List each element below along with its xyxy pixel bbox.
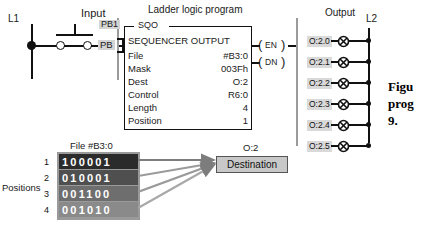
- figure-caption: Figu prog 9.: [388, 78, 414, 129]
- contact-tick-tl: [117, 38, 123, 40]
- sqo-value-file: #B3:0: [223, 50, 248, 61]
- output-address-5: O:2.5: [307, 141, 332, 152]
- destination-address: O:2: [243, 143, 258, 153]
- sqo-value-control: R6:0: [228, 89, 248, 100]
- sqo-value-dest: O:2: [233, 76, 248, 87]
- sqo-key-file: File: [128, 50, 143, 61]
- dn-coil-label: DN: [265, 58, 277, 67]
- lamp-lead-left-5: [331, 145, 338, 147]
- sqo-border-top-right: [169, 26, 252, 27]
- file-table-title: File #B3:0: [70, 141, 113, 151]
- en-coil-label: EN: [265, 41, 277, 50]
- pb-label: PB: [98, 40, 115, 50]
- en-wire-out: [288, 45, 296, 47]
- lamp-lead-left-2: [331, 82, 338, 84]
- dn-coil-paren-right: ): [281, 54, 285, 69]
- l2-junction-5: [366, 143, 371, 148]
- output-address-4: O:2.4: [307, 120, 332, 131]
- sqo-value-length: 4: [243, 102, 248, 113]
- l2-junction-4: [366, 122, 371, 127]
- ladder-right-rail: [296, 18, 298, 146]
- sqo-border-top-left: [124, 26, 134, 27]
- lamp-lead-left-0: [331, 40, 338, 42]
- l2-label: L2: [366, 14, 377, 24]
- file-row-number-2: 2: [44, 173, 49, 183]
- en-coil-paren-left: (: [258, 37, 262, 52]
- pb-wire-mid: [64, 45, 84, 47]
- output-address-1: O:2.1: [307, 57, 332, 68]
- positions-label: Positions: [2, 183, 41, 193]
- lamp-lead-left-1: [331, 61, 338, 63]
- caption-line-1: Figu: [388, 78, 414, 95]
- sqo-value-mask: 003Fh: [221, 63, 248, 74]
- file-row-4: 001010: [59, 202, 138, 217]
- file-row-number-3: 3: [44, 189, 49, 199]
- destination-box: Destination: [216, 156, 288, 173]
- file-row-number-4: 4: [44, 205, 49, 215]
- ladder-title: Ladder logic program: [148, 5, 243, 15]
- caption-line-3: 9.: [388, 112, 414, 129]
- ladder-logic-figure: Input Ladder logic program Output L1 PB …: [0, 0, 425, 232]
- contact-tick-bl: [117, 51, 123, 53]
- sqo-key-dest: Dest: [128, 76, 148, 87]
- sqo-key-length: Length: [128, 102, 157, 113]
- file-row-number-1: 1: [44, 157, 49, 167]
- output-address-0: O:2.0: [307, 36, 332, 47]
- input-heading: Input: [81, 8, 105, 19]
- l2-junction-3: [366, 101, 371, 106]
- l1-rail: [31, 24, 33, 79]
- output-heading: Output: [325, 8, 355, 18]
- transfer-arrows: [138, 150, 220, 222]
- lamp-lead-left-4: [331, 124, 338, 126]
- sqo-instruction-name: SEQUENCER OUTPUT: [128, 36, 230, 46]
- caption-line-2: prog: [388, 95, 414, 112]
- sqo-key-control: Control: [128, 89, 159, 100]
- output-address-3: O:2.3: [307, 99, 332, 110]
- file-table: 100001 010001 001100 001010: [57, 152, 140, 220]
- l1-label: L1: [8, 14, 19, 24]
- l2-junction-0: [366, 38, 371, 43]
- sqo-mnemonic: SQO: [136, 21, 160, 30]
- pb-actuator-stem: [74, 24, 76, 35]
- file-row-3: 001100: [59, 186, 138, 201]
- lamp-lead-left-3: [331, 103, 338, 105]
- sqo-key-position: Position: [128, 115, 162, 126]
- en-coil-paren-right: ): [281, 37, 285, 52]
- l2-junction-1: [366, 59, 371, 64]
- output-address-2: O:2.2: [307, 78, 332, 89]
- sqo-key-mask: Mask: [128, 63, 151, 74]
- file-row-2: 010001: [59, 170, 138, 185]
- sqo-value-position: 1: [243, 115, 248, 126]
- dn-coil-paren-left: (: [258, 54, 262, 69]
- l1-junction-dot: [27, 41, 36, 50]
- l2-junction-2: [366, 80, 371, 85]
- file-row-1: 100001: [59, 154, 138, 169]
- pb1-label: PB1: [99, 20, 120, 29]
